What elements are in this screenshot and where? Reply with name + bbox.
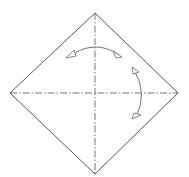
origami-diagram [0,0,189,177]
paper-square [10,13,178,174]
